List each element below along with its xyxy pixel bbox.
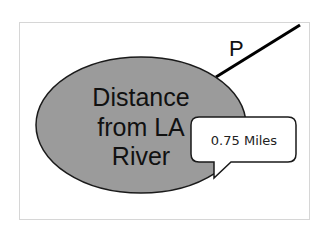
callout-text: 0.75 Miles (211, 133, 278, 148)
node-label-line-3: River (112, 142, 170, 170)
diagram-canvas: P Distance from LA River 0.75 Miles (0, 0, 329, 225)
node-label-line-1: Distance (92, 83, 189, 111)
node-label-line-2: from LA (97, 113, 185, 141)
edge-label-p: P (229, 36, 244, 61)
